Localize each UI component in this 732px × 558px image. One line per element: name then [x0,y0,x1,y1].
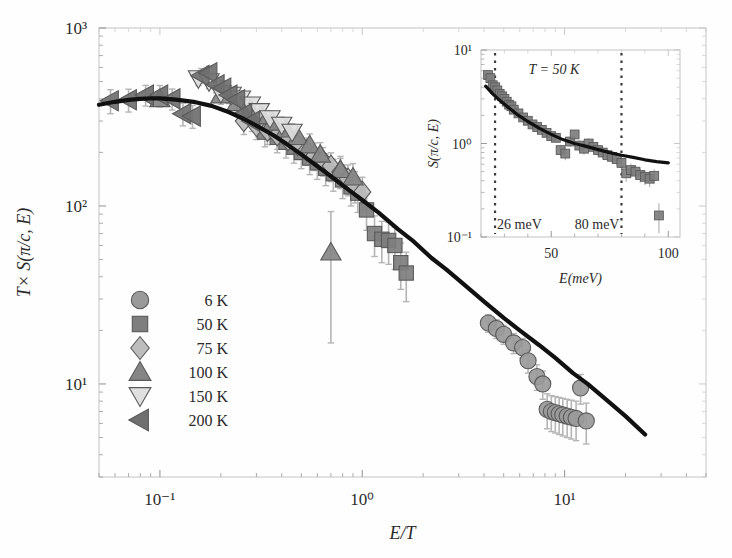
figure-root: 10⁻¹10⁰10¹10¹10²10³E/TT× S(π/c, E)6 K50 … [0,0,732,558]
inset-y-tick-label: 10⁰ [452,137,472,152]
inset-y-tick-label: 10⁻¹ [447,230,472,245]
data-point-circle [578,413,594,429]
inset-x-axis-label: E(meV) [558,271,602,287]
legend-marker-50-k [132,316,147,331]
data-point-triangle-up [321,242,341,260]
inset-data-point [617,159,626,168]
legend-label-150-k: 150 K [188,388,228,405]
legend-marker-75-k [131,337,149,360]
legend-marker-100-k [129,362,151,381]
legend-marker-200-k [129,409,149,431]
legend-label-75-k: 75 K [196,340,228,357]
legend-label-6-k: 6 K [204,292,228,309]
x-tick-label: 10⁰ [350,490,374,509]
x-tick-label: 10⁻¹ [144,490,175,509]
legend-label-50-k: 50 K [196,316,228,333]
y-tick-label: 10² [65,197,87,216]
legend: 6 K50 K75 K100 K150 K200 K [129,291,229,431]
data-point-square [399,266,413,280]
inset-data-point [561,149,570,158]
legend-marker-150-k [129,388,151,407]
legend-label-200-k: 200 K [188,412,228,429]
x-tick-label: 10¹ [554,490,576,509]
inset-data-point [650,172,659,181]
legend-label-100-k: 100 K [188,364,228,381]
inset-x-tick-label: 100 [658,246,679,261]
data-point-circle [520,353,536,369]
y-tick-label: 10³ [65,19,87,38]
inset-vline-label-80: 80 meV [575,217,620,232]
data-point-square [388,238,402,252]
plot-canvas: 10⁻¹10⁰10¹10¹10²10³E/TT× S(π/c, E)6 K50 … [0,0,732,558]
inset-data-point [655,211,664,220]
inset-x-tick-label: 50 [544,246,558,261]
inset-temperature-annotation: T = 50 K [529,62,580,77]
inset-plot [481,50,680,237]
y-tick-label: 10¹ [65,375,87,394]
x-axis-label: E/T [388,523,417,543]
inset-data-point [570,130,579,139]
inset-vline-label-26: 26 meV [497,217,542,232]
inset-y-tick-label: 10¹ [454,43,472,58]
inset-y-axis-label: S(π/c, E) [426,119,442,168]
legend-marker-6-k [131,291,148,308]
y-axis-label: T× S(π/c, E) [14,208,35,298]
data-point-circle [535,376,551,392]
